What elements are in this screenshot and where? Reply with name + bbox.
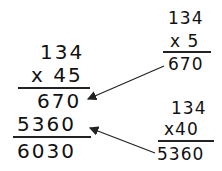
arrow-bottom-icon	[90, 128, 155, 153]
arrows	[0, 0, 222, 171]
arrow-top-icon	[88, 66, 164, 99]
